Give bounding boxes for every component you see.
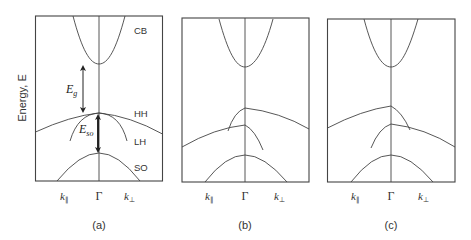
gamma-label: Γ [96,189,103,203]
upper-valence-band [228,108,309,131]
k-parallel-label: k∥ [351,190,360,204]
gamma-label: Γ [388,189,395,203]
split-off-band [57,153,140,181]
k-parallel-label: k∥ [60,190,69,204]
k-perp-label: k⊥ [124,190,135,203]
gamma-label: Γ [242,189,249,203]
cb-label: CB [134,25,147,36]
band-structure-figure: Energy, E Eg Eso CB HH LH SO k∥ Γ k⊥ (a) [0,0,471,240]
panel-a-caption: (a) [92,219,105,231]
lower-valence-band [371,124,455,148]
split-off-band [351,155,433,182]
panel-b-frame [182,18,309,182]
panel-a: Eg Eso CB HH LH SO k∥ Γ k⊥ (a) [36,16,163,231]
panel-b-caption: (b) [238,219,251,231]
conduction-band [219,19,273,67]
lh-label: LH [134,136,146,147]
band-gap-label: Eg [65,82,77,98]
k-perp-label: k⊥ [418,190,429,203]
panel-c: k∥ Γ k⊥ (c) [328,19,456,231]
k-parallel-label: k∥ [205,190,214,204]
k-perp-label: k⊥ [274,190,285,203]
spin-orbit-label: Eso [78,122,93,138]
y-axis-label: Energy, E [16,74,28,122]
split-off-band [205,155,287,182]
so-label: SO [134,162,148,173]
hh-label: HH [134,108,148,119]
upper-valence-band [328,106,411,130]
panel-c-caption: (c) [385,219,398,231]
panel-b: k∥ Γ k⊥ (b) [182,18,309,231]
lower-valence-band [182,125,263,150]
